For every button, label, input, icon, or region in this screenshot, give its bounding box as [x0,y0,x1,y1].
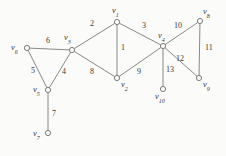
edge-label: 3 [142,22,146,30]
edge-label: 10 [174,22,182,30]
vertex-label-subscript: 2 [125,86,128,92]
graph-vertex [197,18,202,23]
vertex-label: v2 [121,80,128,89]
vertex-label: v9 [203,80,210,89]
graph-vertex [24,45,29,50]
graph-vertex [196,75,201,80]
vertex-label-subscript: 3 [68,39,71,45]
vertex-label: v1 [112,6,119,15]
graph-edge [49,52,70,88]
edge-label: 12 [176,55,184,63]
edge-label: 8 [90,68,94,76]
edge-label: 1 [121,44,125,52]
vertex-label: v7 [33,129,40,138]
graph-edge [119,23,160,45]
graph-vertex [114,75,119,80]
vertex-label-subscript: 8 [207,13,210,19]
edge-label: 9 [137,68,141,76]
vertex-label-subscript: 1 [116,12,119,18]
graph-vertex [69,47,74,52]
graph-figure: 12345678910111213v1v2v3v4v5v6v7v8v9v10 [0,0,226,156]
edge-label: 13 [166,66,174,74]
edge-label: 2 [90,20,94,28]
vertex-label-subscript: 6 [15,49,18,55]
vertex-label: v10 [155,92,165,101]
graph-edge [74,51,115,76]
vertex-label: v4 [158,31,165,40]
graph-vertex [160,43,165,48]
vertex-label-subscript: 5 [37,91,40,97]
vertex-label-subscript: 9 [207,86,210,92]
vertex-label: v5 [33,85,40,94]
vertices-group [24,18,202,135]
vertex-label: v8 [203,7,210,16]
edge-label: 5 [31,67,35,75]
edge-label: 4 [62,68,66,76]
graph-vertex [45,87,50,92]
edge-label: 6 [46,37,50,45]
graph-edge [30,48,70,50]
graph-vertex [45,130,50,135]
graph-vertex [160,86,165,91]
vertex-label-subscript: 4 [162,37,165,43]
graph-edge [74,23,115,48]
graph-vertex [114,19,119,24]
vertex-label: v3 [64,33,71,42]
edge-label: 7 [52,110,56,118]
vertex-label: v6 [11,43,18,52]
edge-label: 11 [205,44,213,52]
vertex-label-subscript: 10 [159,98,165,104]
vertex-label-subscript: 7 [37,135,40,141]
graph-edge [199,24,200,76]
